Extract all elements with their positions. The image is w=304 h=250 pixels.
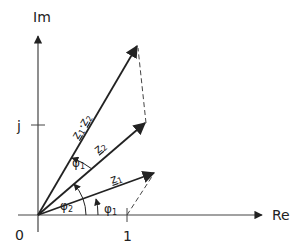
real-tick-label: 1 (123, 228, 132, 244)
vector-label-z1z2: z1·z2 (68, 111, 94, 142)
origin-label: 0 (15, 227, 24, 243)
imag-tick-label: j (16, 118, 21, 134)
angle-arc-phi1-base (96, 199, 98, 215)
angle-label-phi1-base: φ1 (104, 202, 117, 217)
vector-z1z2 (38, 46, 137, 215)
angle-label-phi1-top: φ1 (72, 156, 85, 171)
real-axis-label: Re (272, 207, 290, 223)
dashed-line-z2-to-z1z2 (138, 48, 146, 123)
vector-label-z2: z2 (91, 138, 109, 157)
complex-plane-diagram: Im Re 0 1 j φ1 φ2 φ1 z1 z2 z1·z2 (0, 0, 304, 250)
imag-axis-label: Im (33, 9, 51, 25)
angle-label-phi2: φ2 (60, 199, 73, 214)
vector-z1 (38, 173, 154, 215)
